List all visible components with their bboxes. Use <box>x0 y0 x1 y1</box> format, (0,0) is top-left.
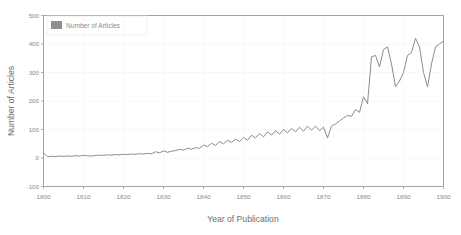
x-tick-label: 1900 <box>437 193 451 200</box>
y-tick-label: 0 <box>36 154 40 161</box>
y-axis-title: Number of Articles <box>6 66 16 136</box>
chart-figure: -1000100200300400500 1800181018201830184… <box>0 0 461 235</box>
x-axis-title: Year of Publication <box>207 214 279 224</box>
x-tick-label: 1880 <box>357 193 371 200</box>
x-tick-label: 1820 <box>117 193 131 200</box>
x-tick-label: 1890 <box>397 193 411 200</box>
y-tick-label: 100 <box>29 126 40 133</box>
y-tick-label: 500 <box>29 12 40 19</box>
article-count-line-chart: -1000100200300400500 1800181018201830184… <box>0 0 461 235</box>
y-tick-label: 300 <box>29 69 40 76</box>
x-tick-label: 1860 <box>277 193 291 200</box>
x-tick-label: 1810 <box>77 193 91 200</box>
x-tick-label: 1850 <box>237 193 251 200</box>
legend-color-swatch <box>51 21 62 29</box>
y-tick-label: 200 <box>29 97 40 104</box>
x-tick-label: 1830 <box>157 193 171 200</box>
x-tick-label: 1800 <box>37 193 51 200</box>
y-tick-label: 400 <box>29 40 40 47</box>
y-tick-label: -100 <box>27 183 40 190</box>
x-tick-label: 1870 <box>317 193 331 200</box>
legend-label-number-of-articles: Number of Articles <box>66 22 121 29</box>
x-tick-label: 1840 <box>197 193 211 200</box>
